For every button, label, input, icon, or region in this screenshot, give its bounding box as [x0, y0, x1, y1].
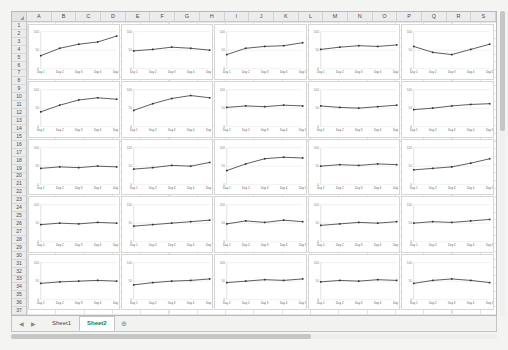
- chart-panel[interactable]: Gerard Johnson050100Day 1Day 2Day 3Day 4…: [121, 81, 213, 138]
- sheet-nav-arrows[interactable]: ◀ ▶: [15, 321, 36, 327]
- row-header-23[interactable]: 23: [12, 196, 26, 204]
- row-header-14[interactable]: 14: [12, 125, 26, 133]
- column-header-l[interactable]: L: [299, 12, 324, 21]
- row-header-19[interactable]: 19: [12, 165, 26, 173]
- chart-panel[interactable]: Daisy Allen050100Day 1Day 2Day 3Day 4Day…: [28, 24, 120, 81]
- chart-panel[interactable]: Todd Fowler050100Day 1Day 2Day 3Day 4Day…: [121, 139, 213, 196]
- chart-panel[interactable]: Raul Jones050100Day 1Day 2Day 3Day 4Day …: [401, 196, 493, 253]
- row-header-7[interactable]: 7: [12, 70, 26, 78]
- row-header-30[interactable]: 30: [12, 252, 26, 260]
- column-header-f[interactable]: F: [150, 12, 175, 21]
- row-header-2[interactable]: 2: [12, 30, 26, 38]
- column-header-row[interactable]: ABCDEFGHIJKLMNOPQRS: [12, 12, 496, 22]
- chart-matrix: Daisy Allen050100Day 1Day 2Day 3Day 4Day…: [27, 23, 494, 311]
- row-header-9[interactable]: 9: [12, 85, 26, 93]
- row-header-31[interactable]: 31: [12, 260, 26, 268]
- row-header-13[interactable]: 13: [12, 117, 26, 125]
- column-header-k[interactable]: K: [274, 12, 299, 21]
- svg-text:50: 50: [315, 106, 319, 110]
- chart-panel[interactable]: Jennifer Head050100Day 1Day 2Day 3Day 4D…: [28, 139, 120, 196]
- chart-panel[interactable]: Joe Perry050100Day 1Day 2Day 3Day 4Day 5: [121, 24, 213, 81]
- column-header-e[interactable]: E: [126, 12, 151, 21]
- row-header-33[interactable]: 33: [12, 276, 26, 284]
- column-header-c[interactable]: C: [76, 12, 101, 21]
- chart-panel[interactable]: Bernard Jones050100Day 1Day 2Day 3Day 4D…: [28, 254, 120, 311]
- horizontal-scroll-thumb[interactable]: [11, 334, 311, 339]
- row-header-1[interactable]: 1: [12, 22, 26, 30]
- svg-text:50: 50: [315, 49, 319, 53]
- sheet-tab-sheet2[interactable]: Sheet2: [79, 316, 115, 331]
- row-header-35[interactable]: 35: [12, 291, 26, 299]
- chart-panel[interactable]: Douglas Taylor050100Day 1Day 2Day 3Day 4…: [401, 139, 493, 196]
- chart-panel[interactable]: Victor Klein050100Day 1Day 2Day 3Day 4Da…: [214, 196, 306, 253]
- column-header-o[interactable]: O: [373, 12, 398, 21]
- chart-panel[interactable]: Sarah Clark050100Day 1Day 2Day 3Day 4Day…: [401, 254, 493, 311]
- row-header-column[interactable]: 1234567891011121314151617181920212223242…: [12, 22, 27, 315]
- chart-plot-area: 050100Day 1Day 2Day 3Day 4Day 5: [402, 28, 492, 79]
- row-header-17[interactable]: 17: [12, 149, 26, 157]
- column-header-j[interactable]: J: [249, 12, 274, 21]
- row-header-10[interactable]: 10: [12, 93, 26, 101]
- chart-panel[interactable]: Joe Long050100Day 1Day 2Day 3Day 4Day 5: [214, 24, 306, 81]
- row-header-34[interactable]: 34: [12, 283, 26, 291]
- row-header-24[interactable]: 24: [12, 204, 26, 212]
- chart-panel[interactable]: William Smith050100Day 1Day 2Day 3Day 4D…: [308, 139, 400, 196]
- column-header-b[interactable]: B: [52, 12, 77, 21]
- row-header-22[interactable]: 22: [12, 188, 26, 196]
- chart-panel[interactable]: Stephen Mitchell050100Day 1Day 2Day 3Day…: [308, 24, 400, 81]
- row-header-16[interactable]: 16: [12, 141, 26, 149]
- column-header-p[interactable]: P: [397, 12, 422, 21]
- worksheet-area[interactable]: ABCDEFGHIJKLMNOPQRS 12345678910111213141…: [11, 11, 497, 316]
- row-header-6[interactable]: 6: [12, 62, 26, 70]
- row-header-12[interactable]: 12: [12, 109, 26, 117]
- column-header-a[interactable]: A: [27, 12, 52, 21]
- chart-panel[interactable]: Robert Hall050100Day 1Day 2Day 3Day 4Day…: [401, 81, 493, 138]
- row-header-20[interactable]: 20: [12, 173, 26, 181]
- column-header-m[interactable]: M: [323, 12, 348, 21]
- row-header-32[interactable]: 32: [12, 268, 26, 276]
- row-header-4[interactable]: 4: [12, 46, 26, 54]
- select-all-corner[interactable]: [12, 12, 27, 21]
- row-header-18[interactable]: 18: [12, 157, 26, 165]
- horizontal-scrollbar[interactable]: [11, 334, 497, 339]
- prev-sheet-icon[interactable]: ◀: [19, 321, 24, 327]
- chart-panel[interactable]: Peter Gonzales050100Day 1Day 2Day 3Day 4…: [121, 196, 213, 253]
- row-header-5[interactable]: 5: [12, 54, 26, 62]
- add-sheet-icon[interactable]: ⊕: [121, 320, 127, 327]
- sheet-tab-sheet1[interactable]: Sheet1: [44, 316, 79, 331]
- chart-panel[interactable]: Susie Fitzgerald050100Day 1Day 2Day 3Day…: [28, 81, 120, 138]
- row-header-28[interactable]: 28: [12, 236, 26, 244]
- row-header-36[interactable]: 36: [12, 299, 26, 307]
- column-header-q[interactable]: Q: [422, 12, 447, 21]
- column-header-n[interactable]: N: [348, 12, 373, 21]
- chart-panel[interactable]: Thelma Carter050100Day 1Day 2Day 3Day 4D…: [401, 24, 493, 81]
- chart-panel[interactable]: Shannon Taylor050100Day 1Day 2Day 3Day 4…: [308, 254, 400, 311]
- sheet-tab-bar[interactable]: ◀ ▶ Sheet1Sheet2 ⊕: [11, 316, 497, 332]
- row-header-21[interactable]: 21: [12, 180, 26, 188]
- row-header-25[interactable]: 25: [12, 212, 26, 220]
- row-header-26[interactable]: 26: [12, 220, 26, 228]
- chart-panel[interactable]: Francis Valencia050100Day 1Day 2Day 3Day…: [214, 254, 306, 311]
- row-header-29[interactable]: 29: [12, 244, 26, 252]
- column-header-i[interactable]: I: [225, 12, 250, 21]
- chart-panel[interactable]: Evelyn Reyes050100Day 1Day 2Day 3Day 4Da…: [28, 196, 120, 253]
- row-header-15[interactable]: 15: [12, 133, 26, 141]
- column-header-s[interactable]: S: [471, 12, 496, 21]
- chart-panel[interactable]: Christopher Anderson050100Day 1Day 2Day …: [308, 196, 400, 253]
- vertical-scrollbar[interactable]: [500, 11, 505, 316]
- next-sheet-icon[interactable]: ▶: [31, 321, 36, 327]
- row-header-37[interactable]: 37: [12, 307, 26, 315]
- row-header-3[interactable]: 3: [12, 38, 26, 46]
- row-header-8[interactable]: 8: [12, 77, 26, 85]
- column-header-h[interactable]: H: [200, 12, 225, 21]
- column-header-r[interactable]: R: [447, 12, 472, 21]
- chart-panel[interactable]: Mary Young050100Day 1Day 2Day 3Day 4Day …: [214, 81, 306, 138]
- column-header-d[interactable]: D: [101, 12, 126, 21]
- chart-panel[interactable]: Norma Young050100Day 1Day 2Day 3Day 4Day…: [121, 254, 213, 311]
- row-header-11[interactable]: 11: [12, 101, 26, 109]
- vertical-scroll-thumb[interactable]: [500, 11, 505, 131]
- chart-panel[interactable]: Robert Mcdonald050100Day 1Day 2Day 3Day …: [308, 81, 400, 138]
- chart-panel[interactable]: Margaret Adams050100Day 1Day 2Day 3Day 4…: [214, 139, 306, 196]
- row-header-27[interactable]: 27: [12, 228, 26, 236]
- column-header-g[interactable]: G: [175, 12, 200, 21]
